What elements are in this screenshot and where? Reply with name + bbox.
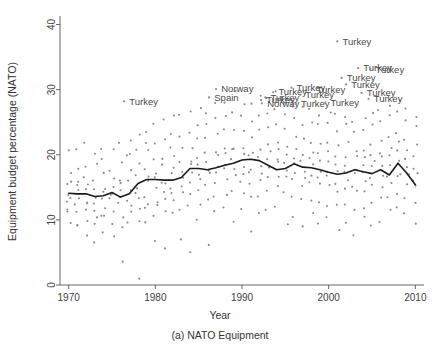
scatter-point: [308, 181, 310, 183]
scatter-point: [235, 174, 237, 176]
figure-panel: 01020304019701980199020002010YearEquipme…: [0, 0, 434, 361]
scatter-point: [139, 208, 141, 210]
scatter-point: [66, 210, 68, 212]
scatter-point: [222, 207, 224, 209]
scatter-point: [348, 141, 350, 143]
scatter-point: [311, 121, 313, 123]
scatter-point: [267, 176, 269, 178]
scatter-point: [147, 149, 149, 151]
scatter-point: [93, 210, 95, 212]
scatter-point: [369, 177, 371, 179]
scatter-point: [226, 178, 228, 180]
scatter-point: [413, 168, 415, 170]
scatter-point: [204, 137, 206, 139]
scatter-point: [104, 188, 106, 190]
scatter-point: [353, 209, 355, 211]
annotation-marker-dot: [299, 94, 301, 96]
annotation-label: Turkey: [375, 64, 404, 75]
scatter-point: [363, 190, 365, 192]
scatter-point: [233, 168, 235, 170]
scatter-point: [369, 154, 371, 156]
scatter-point: [270, 150, 272, 152]
scatter-point: [356, 150, 358, 152]
scatter-point: [344, 165, 346, 167]
scatter-point: [406, 149, 408, 151]
scatter-point: [215, 151, 217, 153]
scatter-point: [277, 161, 279, 163]
scatter-point: [403, 139, 405, 141]
scatter-point: [389, 114, 391, 116]
scatter-point: [199, 204, 201, 206]
scatter-point: [334, 155, 336, 157]
annotation-marker-dot: [345, 83, 347, 85]
scatter-point: [214, 117, 216, 119]
scatter-point: [144, 221, 146, 223]
scatter-point: [259, 149, 261, 151]
scatter-chart: 01020304019701980199020002010YearEquipme…: [0, 0, 434, 361]
scatter-point: [205, 161, 207, 163]
scatter-point: [347, 179, 349, 181]
scatter-point: [77, 181, 79, 183]
scatter-point: [258, 115, 260, 117]
y-tick-label: 0: [46, 282, 57, 288]
scatter-point: [205, 112, 207, 114]
y-tick-label: 20: [46, 149, 57, 161]
scatter-point: [398, 141, 400, 143]
annotation-marker-dot: [369, 68, 371, 70]
scatter-point: [144, 207, 146, 209]
scatter-point: [68, 149, 70, 151]
scatter-point: [138, 220, 140, 222]
annotation-marker-dot: [261, 102, 263, 104]
scatter-point: [291, 196, 293, 198]
scatter-point: [242, 173, 244, 175]
scatter-point: [78, 197, 80, 199]
y-tick-label: 40: [46, 19, 57, 31]
scatter-point: [412, 155, 414, 157]
scatter-point: [109, 170, 111, 172]
scatter-point: [190, 163, 192, 165]
scatter-point: [352, 234, 354, 236]
scatter-point: [130, 205, 132, 207]
scatter-point: [293, 157, 295, 159]
scatter-point: [379, 152, 381, 154]
scatter-point: [70, 222, 72, 224]
scatter-point: [304, 177, 306, 179]
scatter-point: [370, 202, 372, 204]
scatter-point: [196, 157, 198, 159]
scatter-point: [190, 110, 192, 112]
annotation-marker-dot: [215, 88, 217, 90]
scatter-point: [119, 189, 121, 191]
scatter-point: [143, 196, 145, 198]
scatter-point: [377, 109, 379, 111]
scatter-point: [217, 133, 219, 135]
scatter-point: [154, 142, 156, 144]
y-tick-label: 30: [46, 84, 57, 96]
scatter-point: [173, 167, 175, 169]
scatter-point: [198, 174, 200, 176]
scatter-point: [130, 169, 132, 171]
scatter-point: [334, 113, 336, 115]
scatter-point: [200, 107, 202, 109]
scatter-point: [83, 142, 85, 144]
scatter-points-group: [66, 90, 419, 280]
scatter-point: [70, 172, 72, 174]
scatter-point: [224, 147, 226, 149]
scatter-point: [403, 197, 405, 199]
scatter-point: [353, 131, 355, 133]
x-tick-label: 1980: [144, 292, 167, 303]
scatter-point: [260, 165, 262, 167]
annotation-group: TurkeyNorwaySpainTurkeyTurkeyTurkeyNorwa…: [123, 36, 404, 110]
scatter-point: [86, 235, 88, 237]
scatter-point: [286, 169, 288, 171]
scatter-point: [310, 175, 312, 177]
scatter-point: [205, 123, 207, 125]
scatter-point: [388, 154, 390, 156]
scatter-point: [85, 209, 87, 211]
scatter-point: [182, 191, 184, 193]
scatter-point: [96, 216, 98, 218]
annotation-label: Turkey: [374, 93, 403, 104]
scatter-point: [320, 171, 322, 173]
scatter-point: [240, 208, 242, 210]
scatter-point: [156, 201, 158, 203]
scatter-point: [396, 193, 398, 195]
